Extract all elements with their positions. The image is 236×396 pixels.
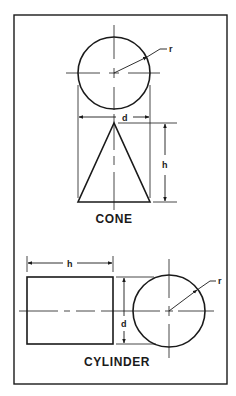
cone-title: CONE: [95, 212, 132, 226]
cylinder-side-view-rectangle: [27, 277, 113, 344]
cone-center-lines: [66, 25, 160, 210]
cone-radius-leader-tail: [147, 49, 167, 57]
cylinder-height-label: h: [67, 259, 73, 269]
cone-figure: r d h CONE: [66, 25, 177, 226]
cone-radius-label: r: [169, 44, 173, 54]
cylinder-radius-leader: [169, 290, 197, 311]
cylinder-figure: h d r CYLINDER: [19, 256, 222, 369]
cylinder-radius-leader-tail: [197, 281, 216, 290]
cylinder-radius-label: r: [218, 276, 222, 286]
cone-radius-leader: [114, 57, 147, 73]
cone-height-label: h: [162, 160, 168, 170]
geometry-diagram: r d h CONE h: [0, 0, 236, 396]
cone-diameter-label: d: [122, 113, 128, 123]
cylinder-diameter-label: d: [121, 319, 127, 329]
cylinder-title: CYLINDER: [84, 355, 150, 369]
